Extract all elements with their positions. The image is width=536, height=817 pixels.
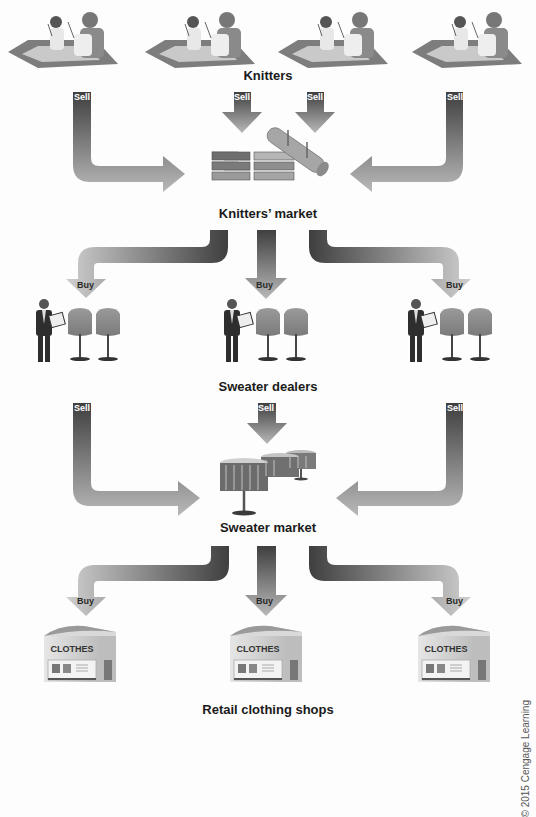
svg-text:Sell: Sell bbox=[307, 92, 323, 102]
svg-text:Buy: Buy bbox=[446, 280, 463, 290]
buy-arrow-4: Buy bbox=[66, 546, 229, 616]
knitter-icon-2 bbox=[145, 12, 255, 68]
sell-arrow-4: Sell bbox=[350, 92, 463, 192]
buy-arrow-6: Buy bbox=[309, 546, 471, 616]
svg-text:CLOTHES: CLOTHES bbox=[424, 644, 467, 654]
buy-arrow-3: Buy bbox=[309, 230, 471, 298]
svg-text:Buy: Buy bbox=[256, 596, 273, 606]
clothes-store-icon-2: CLOTHES bbox=[230, 626, 302, 682]
svg-text:Sell: Sell bbox=[447, 92, 463, 102]
sweater-dealer-icon-1 bbox=[36, 299, 120, 362]
copyright-text: © 2015 Cengage Learning bbox=[520, 700, 531, 817]
sell-arrow-7: Sell bbox=[336, 403, 463, 516]
svg-text:Buy: Buy bbox=[77, 596, 94, 606]
sweater-dealer-icon-3 bbox=[408, 299, 492, 362]
buy-arrow-2: Buy bbox=[245, 230, 287, 299]
buy-arrow-5: Buy bbox=[245, 546, 287, 616]
retail-shops-label: Retail clothing shops bbox=[202, 702, 333, 717]
svg-text:CLOTHES: CLOTHES bbox=[50, 644, 93, 654]
clothes-store-icon-3: CLOTHES bbox=[418, 626, 490, 682]
sell-arrow-1: Sell bbox=[73, 92, 185, 192]
svg-text:Buy: Buy bbox=[446, 596, 463, 606]
sweater-dealer-icon-2 bbox=[224, 299, 308, 362]
svg-text:CLOTHES: CLOTHES bbox=[236, 644, 279, 654]
fabric-bolts-icon bbox=[212, 125, 331, 180]
sweater-market-label: Sweater market bbox=[220, 520, 316, 535]
sweater-dealers-label: Sweater dealers bbox=[218, 379, 317, 394]
sell-arrow-2: Sell bbox=[222, 92, 262, 133]
sell-arrow-6: Sell bbox=[247, 403, 287, 444]
knitters-market-label: Knitters’ market bbox=[219, 206, 317, 221]
knitter-icon-1 bbox=[8, 12, 118, 68]
svg-text:Sell: Sell bbox=[447, 403, 463, 413]
knitter-icon-4 bbox=[412, 12, 522, 68]
svg-text:Buy: Buy bbox=[256, 280, 273, 290]
svg-text:Sell: Sell bbox=[74, 403, 90, 413]
svg-text:Buy: Buy bbox=[77, 280, 94, 290]
market-tables-icon bbox=[220, 450, 316, 516]
buy-arrow-1: Buy bbox=[66, 230, 228, 298]
sell-arrow-3: Sell bbox=[295, 92, 335, 133]
svg-text:Sell: Sell bbox=[234, 92, 250, 102]
svg-text:Sell: Sell bbox=[74, 92, 90, 102]
knitters-label: Knitters bbox=[243, 68, 292, 83]
svg-text:Sell: Sell bbox=[258, 403, 274, 413]
sell-arrow-5: Sell bbox=[73, 403, 200, 516]
knitter-icon-3 bbox=[278, 12, 388, 68]
clothes-store-icon-1: CLOTHES bbox=[44, 626, 116, 682]
